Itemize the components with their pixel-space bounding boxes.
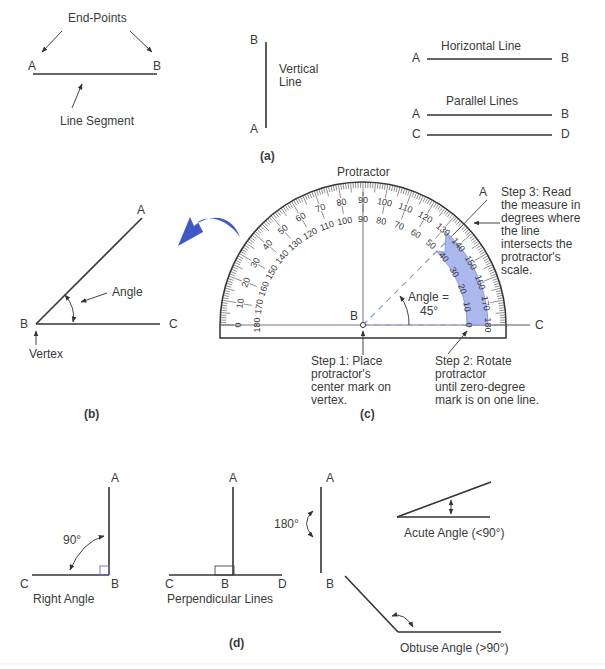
outer-scale-label: 180	[483, 317, 493, 332]
right-label-c: C	[20, 577, 29, 591]
protractor-title: Protractor	[337, 165, 390, 179]
right-label-b: B	[111, 577, 119, 591]
caption-c: (c)	[360, 407, 375, 421]
obtuse-caption: Obtuse Angle (>90°)	[400, 641, 509, 655]
endpoint-arrow-right	[130, 31, 152, 52]
step2-line2: protractor	[435, 367, 486, 381]
segment-arrow	[72, 84, 82, 108]
inner-scale-label: 80	[376, 215, 388, 227]
caption-d: (d)	[229, 636, 244, 650]
parallel-label-b: B	[561, 107, 569, 121]
angle-45-line1: Angle =	[408, 290, 449, 304]
step1-line4: vertex.	[311, 393, 347, 407]
obtuse-ray-1	[345, 576, 398, 632]
step3-line1: Step 3: Read	[501, 185, 571, 199]
angle-pointer	[81, 293, 107, 302]
step1-line3: center mark on	[311, 380, 391, 394]
horizontal-title: Horizontal Line	[441, 39, 521, 53]
perp-label-c: C	[165, 577, 174, 591]
obtuse-arc	[392, 615, 413, 627]
step3-line5: intersects the	[501, 237, 573, 251]
outer-scale-label: 0	[233, 322, 243, 327]
perp-label-a: A	[229, 471, 237, 485]
panel-a: End-Points A B Line Segment B Vertical L…	[28, 11, 570, 163]
step2-line1: Step 2: Rotate	[435, 354, 512, 368]
parallel-label-c: C	[412, 127, 421, 141]
straight-label-b: B	[326, 577, 334, 591]
vertical-caption-1: Vertical	[279, 62, 318, 76]
line-segment-caption: Line Segment	[60, 114, 135, 128]
outer-scale-label: 90	[358, 195, 368, 205]
outer-scale-label: 80	[336, 196, 348, 208]
vertical-label-b: B	[250, 33, 258, 47]
vertical-caption-2: Line	[279, 75, 302, 89]
vertical-label-a: A	[250, 122, 258, 136]
panel-c: Protractor B A C Angle = 45° 01801017020…	[220, 165, 581, 421]
endpoint-arrow-left	[42, 31, 62, 52]
inner-scale-label: 0	[464, 322, 474, 327]
panel-b: A B C Angle Vertex (b)	[20, 203, 178, 421]
segment-label-b: B	[153, 59, 161, 73]
step3-line3: degrees where	[501, 211, 581, 225]
protractor-label-b: B	[350, 309, 358, 323]
step1-line1: Step 1: Place	[311, 354, 383, 368]
center-mark	[361, 323, 366, 328]
step3-line4: the line	[501, 224, 540, 238]
horizontal-label-b: B	[561, 51, 569, 65]
panel-d: A 90° C B Right Angle A C B D Perpendicu…	[20, 471, 509, 655]
perp-label-b: B	[221, 577, 229, 591]
straight-arc	[307, 511, 314, 537]
straight-label-a: A	[326, 471, 334, 485]
perp-caption: Perpendicular Lines	[167, 592, 273, 606]
segment-label-a: A	[28, 59, 36, 73]
acute-caption: Acute Angle (<90°)	[404, 526, 505, 540]
inner-scale-label: 180	[252, 317, 262, 332]
vertex-label: Vertex	[29, 347, 63, 361]
straight-degrees: 180°	[274, 517, 299, 531]
endpoints-label: End-Points	[68, 11, 127, 25]
protractor-label-a: A	[479, 185, 487, 199]
angle-45-line2: 45°	[420, 304, 438, 318]
step3-line6: protractor's	[501, 250, 561, 264]
step2-line3: until zero-degree	[435, 380, 525, 394]
horizontal-label-a: A	[412, 51, 420, 65]
step3-line2: the measure in	[501, 198, 580, 212]
angle-b-label-a: A	[137, 203, 145, 217]
step1-line2: protractor's	[311, 367, 371, 381]
parallel-title: Parallel Lines	[446, 94, 518, 108]
inner-scale-label: 90	[358, 214, 368, 224]
right-angle-mark	[100, 566, 109, 575]
inner-scale-label: 10	[461, 301, 473, 313]
parallel-label-a: A	[412, 107, 420, 121]
right-degrees: 90°	[63, 533, 81, 547]
parallel-label-d: D	[561, 127, 570, 141]
right-angle-caption: Right Angle	[33, 592, 95, 606]
caption-b: (b)	[84, 407, 99, 421]
perp-mark	[215, 566, 234, 575]
protractor-label-c: C	[535, 318, 544, 332]
ray-ba	[36, 218, 142, 324]
angle-b-label-b: B	[20, 317, 28, 331]
angle-label: Angle	[112, 285, 143, 299]
step3-line7: scale.	[501, 263, 532, 277]
acute-ray-1	[397, 482, 491, 517]
right-label-a: A	[111, 471, 119, 485]
angle-b-label-c: C	[169, 317, 178, 331]
step2-line4: mark is on one line.	[435, 393, 539, 407]
perp-label-d: D	[278, 577, 287, 591]
caption-a: (a)	[260, 149, 275, 163]
outer-scale-label: 10	[234, 298, 246, 310]
angle-arc	[65, 295, 74, 322]
curved-arrow-icon	[178, 217, 240, 246]
